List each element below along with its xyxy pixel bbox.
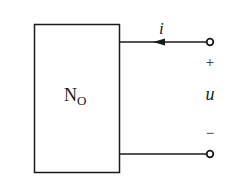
current-arrow-icon xyxy=(153,39,165,46)
circuit-diagram: NO i + u − xyxy=(0,0,231,186)
network-label: NO xyxy=(64,85,86,108)
top-terminal-icon xyxy=(207,39,214,46)
current-label: i xyxy=(159,19,164,38)
plus-sign: + xyxy=(206,54,214,70)
bottom-terminal-icon xyxy=(207,151,214,158)
minus-sign: − xyxy=(206,125,214,141)
voltage-label: u xyxy=(206,84,215,104)
